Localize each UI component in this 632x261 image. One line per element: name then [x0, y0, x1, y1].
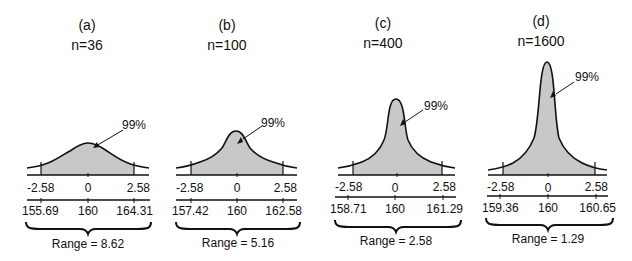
sample-size-label: n=400: [363, 35, 403, 51]
value-tick-low: 159.36: [482, 201, 519, 215]
range-label: Range = 8.62: [52, 237, 125, 251]
value-tick-low: 158.71: [330, 202, 367, 216]
z-tick-mid: 0: [392, 181, 399, 195]
z-tick-mid: 0: [234, 181, 241, 195]
value-tick-high: 160.65: [579, 201, 616, 215]
z-tick-low: -2.58: [176, 181, 204, 195]
area-label: 99%: [424, 99, 448, 113]
panel-d: (d) n=1600 99% -2.58 0 2.58 159.36 160 1…: [482, 13, 616, 246]
z-tick-low: -2.58: [335, 180, 363, 194]
panel-label: (d): [532, 13, 549, 29]
value-tick-low: 155.69: [22, 204, 59, 218]
range-brace: [176, 222, 300, 234]
sample-size-label: n=36: [71, 37, 103, 53]
area-label: 99%: [122, 118, 146, 132]
range-label: Range = 2.58: [360, 234, 433, 248]
z-tick-mid: 0: [545, 181, 552, 195]
z-tick-high: 2.58: [127, 181, 151, 195]
annotation-arrow: [556, 82, 574, 94]
annotation-arrow: [96, 130, 123, 146]
range-brace: [26, 222, 151, 234]
sampling-distribution-figure: (a) n=36 99% -2.58 0 2.58 155.69 160 164…: [0, 0, 632, 261]
z-tick-high: 2.58: [274, 181, 298, 195]
annotation-arrow: [243, 126, 262, 139]
z-tick-low: -2.58: [27, 181, 55, 195]
value-tick-high: 162.58: [265, 204, 302, 218]
range-label: Range = 5.16: [202, 236, 275, 250]
z-tick-low: -2.58: [487, 180, 515, 194]
z-tick-high: 2.58: [585, 180, 609, 194]
range-label: Range = 1.29: [512, 232, 585, 246]
range-brace: [335, 220, 461, 232]
panel-label: (b): [218, 17, 235, 33]
panel-c: (c) n=400 99% -2.58 0 2.58 158.71 160 16…: [330, 15, 463, 248]
value-tick-mid: 160: [78, 204, 98, 218]
panel-b: (b) n=100 99% -2.58 0 2.58 157.42 160 16…: [172, 17, 302, 250]
z-tick-high: 2.58: [433, 180, 457, 194]
value-tick-high: 164.31: [116, 204, 153, 218]
annotation-arrow: [405, 110, 423, 122]
value-tick-mid: 160: [227, 204, 247, 218]
panel-label: (a): [78, 17, 95, 33]
z-tick-mid: 0: [85, 181, 92, 195]
value-tick-low: 157.42: [172, 204, 209, 218]
shaded-area: [191, 131, 283, 175]
value-tick-mid: 160: [385, 202, 405, 216]
sample-size-label: n=100: [207, 37, 247, 53]
panel-label: (c): [375, 15, 391, 31]
panel-a: (a) n=36 99% -2.58 0 2.58 155.69 160 164…: [22, 17, 153, 251]
value-tick-high: 161.29: [426, 202, 463, 216]
value-tick-mid: 160: [538, 201, 558, 215]
sample-size-label: n=1600: [517, 33, 564, 49]
area-label: 99%: [575, 70, 599, 84]
area-label: 99%: [261, 116, 285, 130]
range-brace: [486, 218, 613, 230]
